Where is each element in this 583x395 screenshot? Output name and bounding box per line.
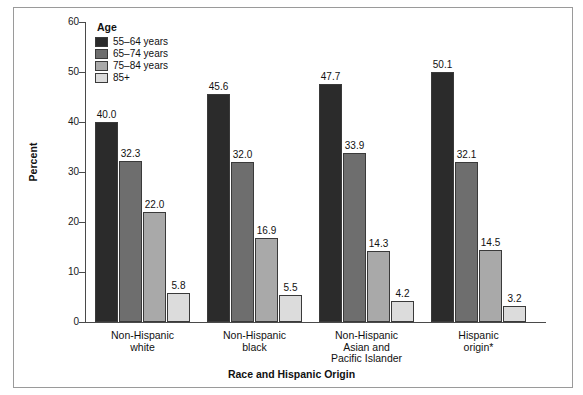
y-axis-title: Percent bbox=[27, 117, 39, 207]
y-axis-tick-value: 50 bbox=[53, 67, 79, 77]
bar-value-label: 14.5 bbox=[472, 237, 509, 248]
y-axis-tick-label: 50 bbox=[45, 67, 79, 77]
y-axis-tick bbox=[79, 322, 85, 323]
x-axis-group-label: Hispanic origin* bbox=[419, 330, 539, 353]
bar bbox=[167, 293, 190, 322]
bar-value-label: 4.2 bbox=[384, 288, 421, 299]
legend-item-label: 75–84 years bbox=[113, 61, 168, 71]
x-axis-title: Race and Hispanic Origin bbox=[0, 368, 583, 380]
x-axis-group-label: Non-Hispanic Asian and Pacific Islander bbox=[307, 330, 427, 365]
legend-swatch-icon bbox=[95, 49, 108, 59]
bar-value-label: 47.7 bbox=[312, 71, 349, 82]
bar bbox=[391, 301, 414, 322]
y-axis-tick-label: 0 bbox=[45, 317, 79, 327]
bar-value-label: 5.5 bbox=[272, 282, 309, 293]
legend-item-label: 55–64 years bbox=[113, 37, 168, 47]
bar bbox=[119, 161, 142, 323]
y-axis-tick-label: 10 bbox=[45, 267, 79, 277]
bar-value-label: 22.0 bbox=[136, 199, 173, 210]
legend: Age 55–64 years65–74 years75–84 years85+ bbox=[95, 22, 168, 84]
bar bbox=[143, 212, 166, 322]
y-axis-tick-label: 60 bbox=[45, 17, 79, 27]
x-axis-line bbox=[85, 322, 546, 323]
bar-value-label: 32.0 bbox=[224, 149, 261, 160]
legend-item-label: 85+ bbox=[113, 73, 130, 83]
bar bbox=[255, 238, 278, 323]
legend-swatch-icon bbox=[95, 37, 108, 47]
y-axis-tick-label: 30 bbox=[45, 167, 79, 177]
legend-items: 55–64 years65–74 years75–84 years85+ bbox=[95, 36, 168, 83]
legend-swatch-icon bbox=[95, 61, 108, 71]
y-axis-tick-label: 20 bbox=[45, 217, 79, 227]
y-axis-tick-value: 10 bbox=[53, 267, 79, 277]
bar bbox=[319, 84, 342, 323]
bar bbox=[231, 162, 254, 322]
x-axis-group-label: Non-Hispanic white bbox=[83, 330, 203, 353]
bar bbox=[367, 251, 390, 323]
y-axis-tick-value: 20 bbox=[53, 217, 79, 227]
bar-value-label: 5.8 bbox=[160, 280, 197, 291]
bar-value-label: 33.9 bbox=[336, 140, 373, 151]
bar-value-label: 16.9 bbox=[248, 225, 285, 236]
legend-item: 55–64 years bbox=[95, 36, 168, 47]
bar bbox=[431, 72, 454, 323]
bar-value-label: 32.1 bbox=[448, 149, 485, 160]
legend-swatch-icon bbox=[95, 73, 108, 83]
bar-value-label: 3.2 bbox=[496, 293, 533, 304]
bar bbox=[479, 250, 502, 323]
bar bbox=[279, 295, 302, 323]
bar-value-label: 32.3 bbox=[112, 148, 149, 159]
legend-item: 65–74 years bbox=[95, 48, 168, 59]
bar-value-label: 14.3 bbox=[360, 238, 397, 249]
bar bbox=[207, 94, 230, 322]
legend-item: 75–84 years bbox=[95, 60, 168, 71]
y-axis-tick-value: 30 bbox=[53, 167, 79, 177]
x-axis-group-label: Non-Hispanic black bbox=[195, 330, 315, 353]
legend-item-label: 65–74 years bbox=[113, 49, 168, 59]
bar-value-label: 40.0 bbox=[88, 109, 125, 120]
bar-value-label: 45.6 bbox=[200, 81, 237, 92]
bar bbox=[503, 306, 526, 322]
legend-title: Age bbox=[97, 22, 168, 33]
y-axis-tick-value: 40 bbox=[53, 117, 79, 127]
y-axis-tick-label: 40 bbox=[45, 117, 79, 127]
y-axis-tick-value: 60 bbox=[53, 17, 79, 27]
legend-item: 85+ bbox=[95, 72, 168, 83]
bar-value-label: 50.1 bbox=[424, 59, 461, 70]
y-axis-tick-value: 0 bbox=[53, 317, 79, 327]
